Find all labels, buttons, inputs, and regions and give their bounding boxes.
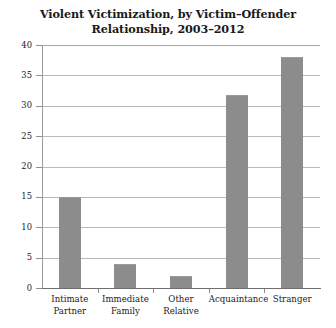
x-axis-label-line: Family bbox=[98, 306, 154, 318]
y-axis-tick-mark-0 bbox=[36, 288, 42, 289]
chart-title-line-1: Violent Victimization, by Victim–Offende… bbox=[0, 7, 336, 22]
x-axis-category-label-1: ImmediateFamily bbox=[98, 294, 154, 317]
y-axis-tick-mark-25 bbox=[36, 136, 42, 137]
x-axis-line bbox=[42, 288, 321, 289]
gridline-10 bbox=[42, 227, 320, 228]
y-axis-line bbox=[42, 45, 43, 289]
y-axis-tick-label-5: 5 bbox=[2, 253, 32, 262]
bar-other-relative bbox=[170, 276, 192, 288]
x-axis-label-line: Acquaintance bbox=[209, 294, 265, 306]
x-axis-tick-mark-3 bbox=[209, 289, 210, 293]
x-axis-tick-mark-2 bbox=[153, 289, 154, 293]
gridline-15 bbox=[42, 197, 320, 198]
y-axis-tick-mark-35 bbox=[36, 75, 42, 76]
x-axis-tick-mark-4 bbox=[264, 289, 265, 293]
y-axis-tick-mark-5 bbox=[36, 258, 42, 259]
gridline-40 bbox=[42, 45, 320, 46]
plot-area bbox=[42, 45, 320, 288]
gridline-5 bbox=[42, 258, 320, 259]
y-axis-tick-label-10: 10 bbox=[2, 223, 32, 232]
bar-intimate-partner bbox=[59, 197, 81, 288]
y-axis-tick-mark-10 bbox=[36, 227, 42, 228]
gridline-25 bbox=[42, 136, 320, 137]
gridline-30 bbox=[42, 106, 320, 107]
gridline-35 bbox=[42, 75, 320, 76]
y-axis-tick-label-0: 0 bbox=[2, 284, 32, 293]
y-axis-tick-label-30: 30 bbox=[2, 101, 32, 110]
x-axis-label-line: Relative bbox=[153, 306, 209, 318]
x-axis-label-line: Stranger bbox=[264, 294, 320, 306]
y-axis-tick-label-35: 35 bbox=[2, 71, 32, 80]
bar-chart-figure: Violent Victimization, by Victim–Offende… bbox=[0, 0, 336, 328]
y-axis-tick-mark-15 bbox=[36, 197, 42, 198]
y-axis-tick-mark-30 bbox=[36, 106, 42, 107]
gridline-20 bbox=[42, 167, 320, 168]
bar-immediate-family bbox=[114, 264, 136, 288]
bar-acquaintance bbox=[226, 95, 248, 288]
x-axis-tick-mark-1 bbox=[98, 289, 99, 293]
y-axis-tick-label-20: 20 bbox=[2, 162, 32, 171]
y-axis-tick-mark-40 bbox=[36, 45, 42, 46]
y-axis-tick-label-25: 25 bbox=[2, 132, 32, 141]
y-axis-tick-label-15: 15 bbox=[2, 192, 32, 201]
x-axis-category-label-2: OtherRelative bbox=[153, 294, 209, 317]
y-axis-tick-label-40: 40 bbox=[2, 41, 32, 50]
x-axis-label-line: Partner bbox=[42, 306, 98, 318]
chart-title-line-2: Relationship, 2003–2012 bbox=[0, 22, 336, 37]
x-axis-category-label-0: IntimatePartner bbox=[42, 294, 98, 317]
x-axis-label-line: Other bbox=[153, 294, 209, 306]
bar-stranger bbox=[281, 57, 303, 288]
x-axis-label-line: Intimate bbox=[42, 294, 98, 306]
x-axis-category-label-4: Stranger bbox=[264, 294, 320, 306]
x-axis-label-line: Immediate bbox=[98, 294, 154, 306]
x-axis-category-label-3: Acquaintance bbox=[209, 294, 265, 306]
y-axis-tick-mark-20 bbox=[36, 167, 42, 168]
chart-title: Violent Victimization, by Victim–Offende… bbox=[0, 7, 336, 37]
